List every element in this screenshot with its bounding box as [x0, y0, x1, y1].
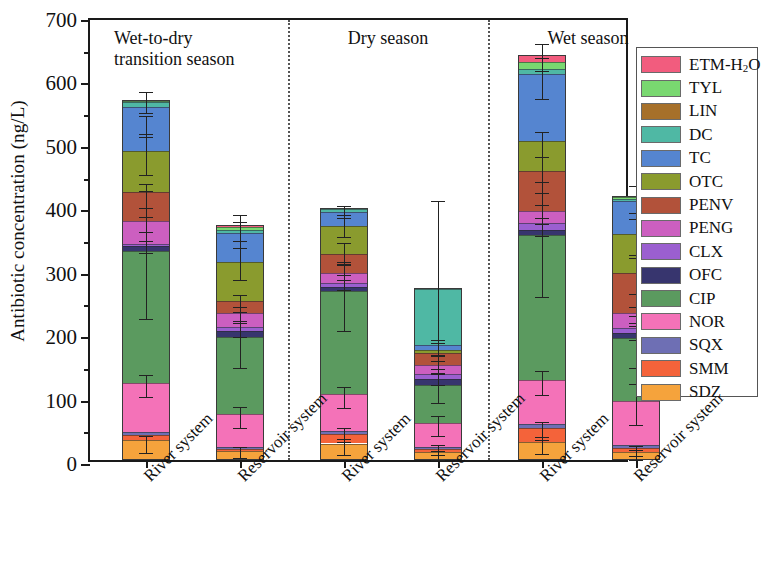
y-tick-minor — [84, 179, 90, 181]
group-separator — [288, 20, 290, 460]
error-bar-cap — [431, 374, 445, 375]
error-bar — [146, 191, 147, 319]
legend-item[interactable]: DC — [641, 123, 757, 146]
error-bar — [146, 217, 147, 232]
error-bar-cap — [233, 241, 247, 242]
error-bar — [542, 422, 543, 440]
error-bar-cap — [431, 361, 445, 362]
error-bar-cap — [139, 175, 153, 176]
legend-swatch — [641, 220, 681, 237]
error-bar-cap — [139, 397, 153, 398]
legend-item[interactable]: SMM — [641, 357, 757, 380]
legend-swatch — [641, 360, 681, 377]
legend-item[interactable]: OFC — [641, 264, 757, 287]
legend-swatch — [641, 173, 681, 190]
legend-item[interactable]: SQX — [641, 334, 757, 357]
error-bar-cap — [233, 428, 247, 429]
error-bar — [240, 447, 241, 458]
legend-swatch — [641, 290, 681, 307]
legend-swatch — [641, 126, 681, 143]
error-bar-cap — [233, 248, 247, 249]
plot-area: 0100200300400500600700Wet-to-drytransiti… — [88, 18, 628, 462]
legend-item[interactable]: OTC — [641, 170, 757, 193]
error-bar-cap — [431, 455, 445, 456]
error-bar-cap — [535, 422, 549, 423]
error-bar-cap — [535, 440, 549, 441]
legend-item[interactable]: SDZ — [641, 380, 757, 403]
legend-label: CIP — [689, 289, 715, 309]
legend-swatch — [641, 80, 681, 97]
error-bar — [240, 248, 241, 280]
error-bar — [542, 182, 543, 296]
error-bar-cap — [139, 184, 153, 185]
y-tick-minor — [84, 242, 90, 244]
error-bar-cap — [139, 436, 153, 437]
error-bar-cap — [337, 243, 351, 244]
legend-label: PENG — [689, 218, 733, 238]
error-bar-cap — [535, 132, 549, 133]
legend-label: NOR — [689, 312, 725, 332]
error-bar-cap — [535, 44, 549, 45]
legend-label: TYL — [689, 78, 722, 98]
y-tick-label: 600 — [46, 71, 78, 96]
y-tick-label: 400 — [46, 198, 78, 223]
error-bar-cap — [233, 323, 247, 324]
error-bar-cap — [233, 312, 247, 313]
error-bar-cap — [139, 453, 153, 454]
error-bar-cap — [233, 215, 247, 216]
error-bar — [542, 157, 543, 193]
error-bar — [344, 428, 345, 443]
legend: ETM-H2OTYLLINDCTCOTCPENVPENGCLXOFCCIPNOR… — [636, 47, 758, 397]
error-bar — [438, 445, 439, 455]
error-bar-cap — [337, 206, 351, 207]
legend-label: LIN — [689, 101, 717, 121]
error-bar-cap — [431, 416, 445, 417]
legend-swatch — [641, 384, 681, 401]
legend-swatch — [641, 243, 681, 260]
error-bar-cap — [233, 295, 247, 296]
bar-segment-sqx[interactable] — [122, 432, 170, 435]
error-bar-cap — [431, 385, 445, 386]
error-bar-cap — [139, 319, 153, 320]
error-bar-cap — [535, 99, 549, 100]
error-bar — [438, 340, 439, 355]
error-bar-cap — [233, 337, 247, 338]
error-bar — [146, 184, 147, 207]
legend-swatch — [641, 337, 681, 354]
error-bar-cap — [337, 442, 351, 443]
legend-item[interactable]: TYL — [641, 76, 757, 99]
legend-item[interactable]: CIP — [641, 287, 757, 310]
legend-item[interactable]: CLX — [641, 240, 757, 263]
error-bar-cap — [337, 264, 351, 265]
legend-label: ETM-H2O — [689, 55, 761, 75]
legend-item[interactable]: TC — [641, 147, 757, 170]
error-bar-cap — [139, 232, 153, 233]
error-bar-cap — [139, 92, 153, 93]
legend-swatch — [641, 150, 681, 167]
legend-item[interactable]: PENV — [641, 193, 757, 216]
legend-swatch — [641, 56, 681, 73]
error-bar-cap — [535, 236, 549, 237]
legend-label: OTC — [689, 172, 723, 192]
y-tick-minor — [84, 369, 90, 371]
legend-label: SDZ — [689, 382, 721, 402]
legend-item[interactable]: NOR — [641, 310, 757, 333]
error-bar-cap — [535, 224, 549, 225]
legend-item[interactable]: PENG — [641, 217, 757, 240]
error-bar-cap — [139, 253, 153, 254]
error-bar — [240, 295, 241, 311]
error-bar-cap — [535, 71, 549, 72]
y-tick-label: 200 — [46, 325, 78, 350]
error-bar-cap — [535, 193, 549, 194]
error-bar-cap — [535, 371, 549, 372]
error-bar — [344, 206, 345, 217]
error-bar-cap — [535, 157, 549, 158]
error-bar-cap — [431, 436, 445, 437]
error-bar-cap — [233, 407, 247, 408]
group-separator — [488, 20, 490, 460]
legend-item[interactable]: LIN — [641, 100, 757, 123]
error-bar — [344, 265, 345, 280]
legend-item[interactable]: ETM-H2O — [641, 53, 757, 76]
error-bar-cap — [139, 116, 153, 117]
error-bar-cap — [431, 445, 445, 446]
